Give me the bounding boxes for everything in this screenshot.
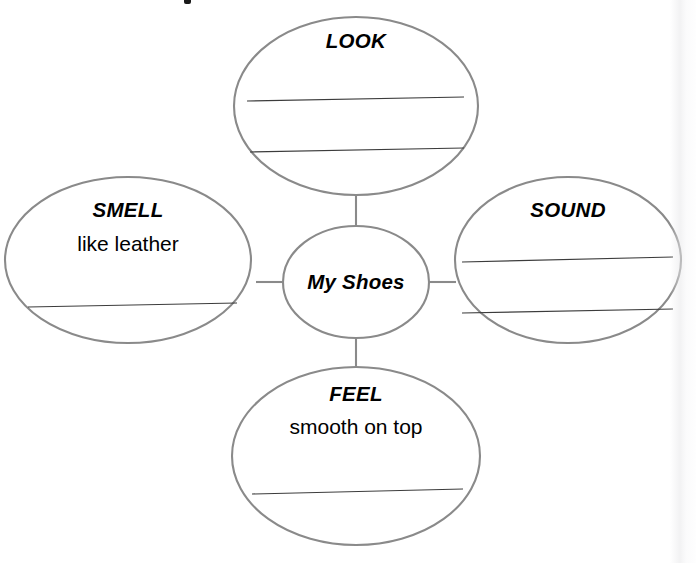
center-topic-label: My Shoes	[286, 272, 426, 293]
bubble-sound-title: SOUND	[473, 200, 663, 221]
bubble-feel-title: FEEL	[256, 384, 456, 405]
bubble-smell-title: SMELL	[33, 200, 223, 221]
scan-ink-mark	[184, 0, 191, 4]
bubble-feel-answer: smooth on top	[256, 416, 456, 437]
bubble-smell-answer: like leather	[33, 233, 223, 254]
bubble-look-title: LOOK	[256, 31, 456, 52]
worksheet-page: LOOK SMELL like leather SOUND FEEL smoot…	[0, 0, 696, 563]
